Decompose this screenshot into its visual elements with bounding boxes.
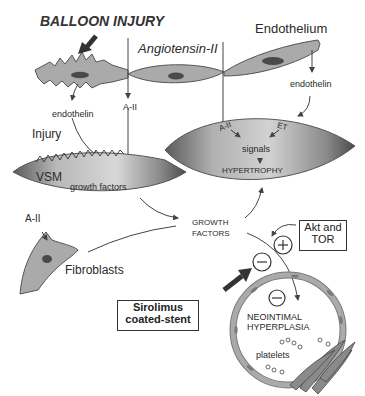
label-growth-factors-small: growth factors [70,183,127,192]
sirolimus-line1: Sirolimus [118,301,198,313]
vessel-cross-section [233,274,355,394]
label-platelets: platelets [256,351,290,360]
middle-endothelial-cell [128,65,224,83]
label-a2-fibroblast: A-II [25,214,41,224]
diagram-canvas: BALLOON INJURY Angiotensin-II Endotheliu… [0,0,365,396]
label-a2-top: A-II [123,103,137,112]
label-growth-factors-1: GROWTH [192,219,228,227]
label-angiotensin: Angiotensin-II [138,42,218,55]
injured-endothelial-cell [35,52,128,88]
sirolimus-line2: coated-stent [118,313,198,325]
akt-line1: Akt and [300,221,346,233]
akt-line2: TOR [300,233,346,245]
label-fibroblasts: Fibroblasts [65,264,124,276]
label-endothelin-right: endothelin [290,80,332,89]
label-neointimal-1: NEOINTIMAL [247,313,302,322]
label-growth-factors-2: FACTORS [192,230,230,238]
right-endothelial-cell [224,40,320,76]
balloon-injury-arrow [78,36,96,54]
label-injury: Injury [32,128,61,140]
label-hypertrophy: HYPERTROPHY [222,167,283,175]
label-endothelium: Endothelium [255,22,327,35]
label-signals: signals [242,145,270,154]
label-neointimal-2: HYPERPLASIA [247,323,310,332]
sirolimus-box: Sirolimus coated-stent [117,300,199,331]
diagram-graphics [0,0,365,396]
label-endothelin-left: endothelin [52,110,94,119]
akt-tor-box: Akt and TOR [299,220,347,251]
label-vsm: VSM [36,171,62,183]
title-balloon-injury: BALLOON INJURY [40,14,164,28]
sirolimus-arrow [224,268,252,290]
